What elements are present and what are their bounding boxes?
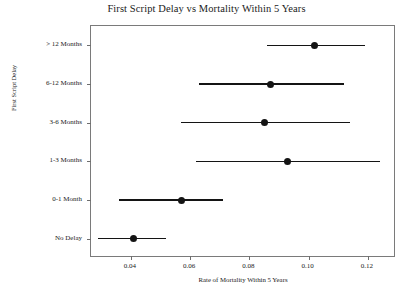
y-axis-tick-mark [87,200,91,201]
point-estimate-marker [311,42,318,49]
x-axis-tick-label: 0.04 [113,262,147,270]
confidence-interval-line [119,199,223,200]
x-axis-tick-mark [368,256,369,260]
y-axis-tick-mark [87,161,91,162]
chart-title: First Script Delay vs Mortality Within 5… [0,3,413,14]
x-axis-tick-label: 0.12 [350,262,384,270]
x-axis-tick-label: 0.08 [231,262,265,270]
y-axis-tick-label: 1-3 Months [0,156,86,164]
y-axis-tick-label: No Delay [0,234,86,242]
y-axis-tick-mark [87,45,91,46]
y-axis-tick-mark [87,239,91,240]
x-axis-title: Rate of Mortality Within 5 Years [90,276,396,283]
point-estimate-marker [284,158,291,165]
x-axis-tick-mark [309,256,310,260]
x-axis-tick-mark [131,256,132,260]
y-axis-tick-mark [87,84,91,85]
point-estimate-marker [267,81,274,88]
x-axis-tick-mark [190,256,191,260]
y-axis-tick-label: 6-12 Months [0,79,86,87]
point-estimate-marker [261,119,268,126]
plot-panel [90,25,395,257]
point-estimate-marker [178,197,185,204]
x-axis-tick-label: 0.06 [172,262,206,270]
y-axis-tick-label: > 12 Months [0,40,86,48]
y-axis-tick-label: 3-6 Months [0,118,86,126]
chart-figure: First Script Delay vs Mortality Within 5… [0,0,413,294]
y-axis-tick-label: 0-1 Month [0,195,86,203]
y-axis-tick-mark [87,123,91,124]
x-axis-tick-mark [249,256,250,260]
point-estimate-marker [130,235,137,242]
x-axis-tick-label: 0.10 [291,262,325,270]
